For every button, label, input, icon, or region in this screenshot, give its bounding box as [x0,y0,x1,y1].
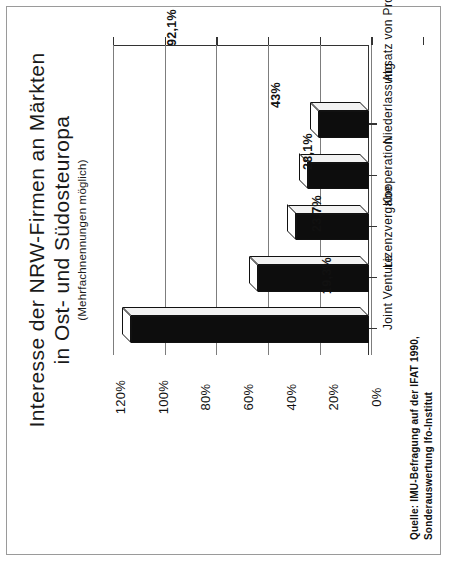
source-line-2: Sonderauswertung Ifo-Institut [422,336,436,540]
bar-value-label: 19,3% [320,257,334,294]
bar-value-label: 23,7% [310,195,324,232]
category-label: Niederlassung [381,63,395,144]
bar-value-label: 92,1% [165,9,179,46]
axis-tick-label: 40% [284,384,299,411]
source-note: Quelle: IMU-Befragung auf der IFAT 1990,… [408,336,435,540]
axis-tick-label: 60% [241,384,256,411]
source-line-1: Quelle: IMU-Befragung auf der IFAT 1990, [408,336,422,540]
labels-layer: 0%20%40%60%80%100%120%92,1%43%28,1%23,7%… [0,0,449,563]
axis-tick-label: 20% [326,384,341,411]
chart-page: Interesse der NRW-Firmen an Märkten in O… [0,0,449,563]
axis-tick-label: 80% [198,384,213,411]
axis-tick-label: 0% [369,387,384,406]
category-label: Joint Venture [381,255,395,330]
axis-tick-label: 100% [156,380,171,414]
bar-value-label: 43% [269,82,283,108]
axis-tick-label: 120% [113,380,128,414]
bar-value-label: 28,1% [301,133,315,170]
